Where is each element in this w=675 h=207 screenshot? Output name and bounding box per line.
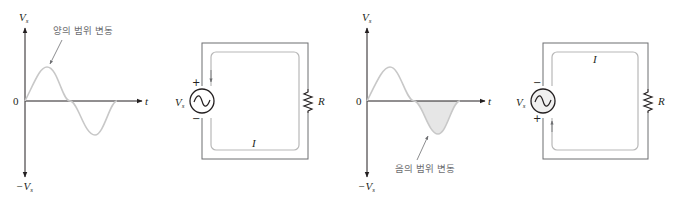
origin-label: 0 [13, 95, 19, 107]
plus-terminal: + [192, 77, 200, 88]
current-label: I [251, 137, 257, 149]
resistor-label: R [657, 95, 665, 107]
negative-swing-annotation: 음의 범위 변동 [395, 163, 455, 174]
minus-terminal: − [533, 77, 541, 88]
right-sine-graph: Vs −Vs 0 t 음의 범위 변동 [356, 11, 492, 194]
x-axis-label: t [488, 95, 492, 107]
y-min-label: −Vs [16, 180, 33, 194]
x-axis-label: t [145, 95, 149, 107]
annotation-arrow [417, 136, 428, 160]
left-circuit: + − Vs R I [175, 43, 325, 159]
y-max-label: Vs [362, 11, 372, 25]
negative-half-fill [414, 101, 460, 134]
plus-terminal: + [533, 113, 541, 124]
source-label: Vs [516, 96, 526, 110]
y-min-label: −Vs [358, 180, 375, 194]
annotation-arrow [50, 40, 62, 64]
origin-label: 0 [356, 95, 362, 107]
current-label: I [592, 53, 598, 65]
right-circuit: − + Vs R I [516, 43, 665, 159]
resistor-label: R [317, 95, 325, 107]
minus-terminal: − [192, 113, 200, 124]
source-label: Vs [175, 96, 185, 110]
left-sine-graph: Vs −Vs 0 t 양의 범위 변동 [13, 11, 149, 194]
positive-swing-annotation: 양의 범위 변동 [53, 25, 113, 36]
y-max-label: Vs [19, 11, 29, 25]
current-path [211, 52, 299, 150]
